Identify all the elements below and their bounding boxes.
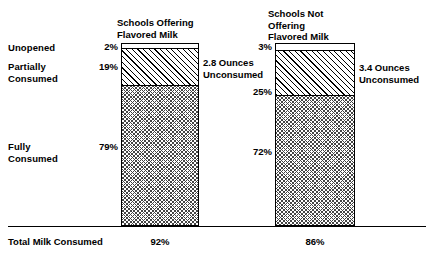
segment-partially-consumed-right: [276, 51, 354, 96]
value-fully-consumed-right: 72%: [234, 146, 272, 157]
segment-fully-consumed-left: [122, 86, 198, 225]
segment-partially-consumed-left: [122, 49, 198, 86]
row-label-unopened: Unopened: [8, 42, 55, 54]
bar-schools-offering: [121, 43, 199, 226]
value-unopened-right: 3%: [234, 41, 272, 52]
value-unopened-left: 2%: [80, 41, 118, 52]
row-label-partially-consumed: Partially Consumed: [8, 61, 58, 84]
segment-unopened-right: [276, 44, 354, 51]
baseline-axis: [8, 226, 426, 227]
footer-label-total-milk-consumed: Total Milk Consumed: [8, 236, 103, 247]
footer-value-left: 92%: [121, 236, 199, 247]
annotation-unconsumed-right: 3.4 Ounces Unconsumed: [359, 62, 419, 85]
annotation-unconsumed-left: 2.8 Ounces Unconsumed: [203, 57, 263, 80]
value-partially-consumed-right: 25%: [234, 86, 272, 97]
column-heading-schools-not-offering: Schools Not Offering Flavored Milk: [268, 8, 329, 43]
value-fully-consumed-left: 79%: [80, 141, 118, 152]
bar-schools-not-offering: [275, 43, 355, 226]
segment-fully-consumed-right: [276, 96, 354, 225]
value-partially-consumed-left: 19%: [80, 61, 118, 72]
row-label-fully-consumed: Fully Consumed: [8, 141, 58, 164]
stacked-bar-chart: Unopened Partially Consumed Fully Consum…: [0, 0, 434, 254]
column-heading-schools-offering: Schools Offering Flavored Milk: [117, 17, 194, 40]
footer-value-right: 86%: [275, 236, 355, 247]
